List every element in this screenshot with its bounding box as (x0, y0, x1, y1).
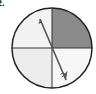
spinner-diagram (0, 0, 96, 94)
